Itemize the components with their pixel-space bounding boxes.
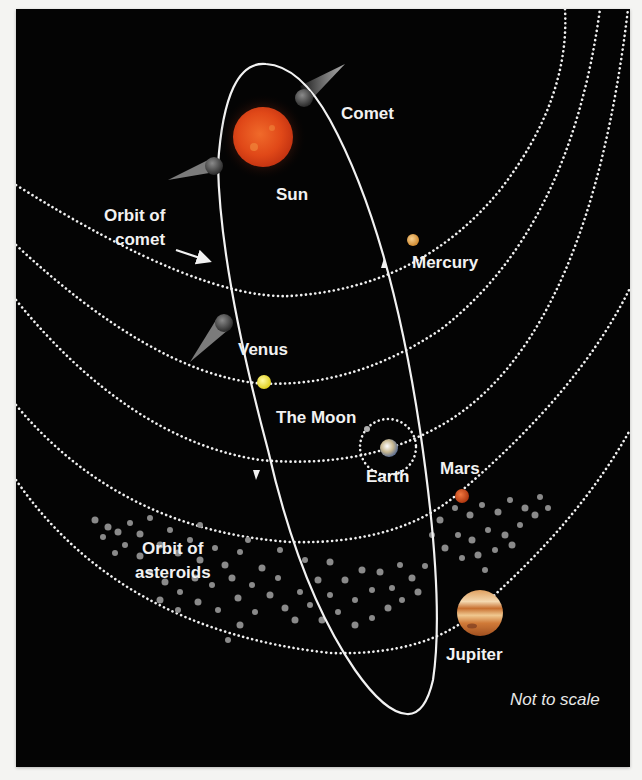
label-the-moon: The Moon xyxy=(276,408,356,427)
label-sun: Sun xyxy=(276,185,308,204)
comet-upper-left xyxy=(168,157,223,180)
diagram-frame: Comet Sun Orbit of comet Mercury Venus T… xyxy=(16,9,630,767)
comet-middle-left xyxy=(190,314,233,362)
mars-planet xyxy=(455,489,469,503)
not-to-scale-note: Not to scale xyxy=(510,690,600,709)
planet-orbits xyxy=(16,9,630,653)
solar-system-diagram: Comet Sun Orbit of comet Mercury Venus T… xyxy=(16,9,630,767)
label-venus: Venus xyxy=(238,340,288,359)
label-mars: Mars xyxy=(440,459,480,478)
venus-planet xyxy=(257,375,271,389)
mercury-planet xyxy=(407,234,419,246)
comet-orbit-arrow-down xyxy=(253,470,260,480)
jupiter-planet xyxy=(457,590,503,636)
moon xyxy=(364,426,370,432)
label-jupiter: Jupiter xyxy=(446,645,503,664)
comet-top-right xyxy=(295,64,345,107)
earth-planet xyxy=(380,439,398,457)
label-orbit-of-comet-line2: comet xyxy=(115,230,165,249)
label-comet: Comet xyxy=(341,104,394,123)
label-mercury: Mercury xyxy=(412,253,479,272)
orbit-of-comet-pointer xyxy=(176,250,206,260)
label-orbit-of-comet-line1: Orbit of xyxy=(104,206,166,225)
label-orbit-of-asteroids-line2: asteroids xyxy=(135,563,211,582)
sun xyxy=(219,93,307,181)
label-orbit-of-asteroids-line1: Orbit of xyxy=(142,539,204,558)
label-earth: Earth xyxy=(366,467,409,486)
